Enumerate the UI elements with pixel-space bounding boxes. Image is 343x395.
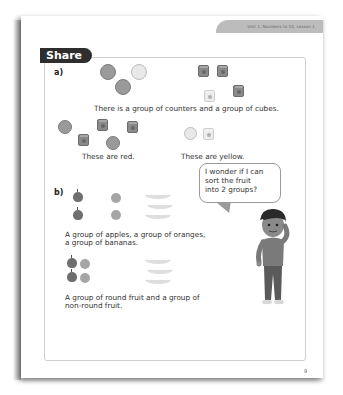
thinking-boy-character-icon: [252, 206, 292, 314]
apple-icon: [67, 272, 77, 282]
red-cube-icon: [233, 85, 244, 97]
part-b-caption2-line2: non-round fruit.: [65, 302, 122, 311]
red-counter-icon: [58, 120, 72, 134]
yellow-counter-icon: [184, 127, 197, 140]
banana-icon: [147, 200, 173, 209]
yellow-caption: These are yellow.: [181, 153, 244, 162]
red-cube-icon: [78, 134, 89, 146]
yellow-cube-icon: [203, 128, 214, 140]
part-a-caption: There is a group of counters and a group…: [94, 105, 279, 114]
banana-icon: [147, 265, 173, 274]
page-number: 9: [304, 368, 307, 374]
part-b-label: b): [54, 188, 63, 197]
orange-icon: [80, 259, 90, 269]
orange-icon: [111, 210, 121, 220]
part-b-caption-line2: a group of bananas.: [65, 239, 138, 248]
red-counter-icon: [100, 64, 116, 80]
yellow-cube-icon: [204, 90, 215, 102]
part-a-label: a): [54, 68, 63, 77]
red-cube-icon: [217, 65, 228, 77]
banana-icon: [145, 275, 171, 284]
red-cube-icon: [127, 121, 138, 133]
orange-icon: [111, 193, 121, 203]
orange-icon: [80, 273, 90, 283]
red-cube-icon: [198, 65, 209, 77]
speech-line-1: I wonder if I can: [205, 167, 275, 176]
apple-icon: [73, 210, 83, 220]
yellow-counter-icon: [131, 64, 147, 80]
banana-icon: [145, 210, 171, 219]
section-title-tab: Share: [40, 48, 92, 63]
book-spine-shadow: [13, 20, 21, 380]
red-counter-icon: [115, 79, 131, 95]
speech-line-3: into 2 groups?: [205, 185, 275, 194]
apple-icon: [73, 192, 83, 202]
red-cube-icon: [97, 119, 108, 131]
banana-icon: [145, 190, 171, 199]
red-caption: These are red.: [82, 153, 135, 162]
section-title: Share: [46, 49, 82, 62]
speech-line-2: sort the fruit: [205, 176, 275, 185]
unit-label: Unit 1: Numbers to 10, Lesson 1: [247, 24, 315, 29]
red-counter-icon: [106, 136, 120, 150]
speech-bubble: I wonder if I can sort the fruit into 2 …: [199, 163, 281, 203]
unit-header-tab: Unit 1: Numbers to 10, Lesson 1: [216, 20, 323, 33]
apple-icon: [67, 258, 77, 268]
banana-icon: [145, 255, 171, 264]
workbook-page: Unit 1: Numbers to 10, Lesson 1 Share a)…: [21, 16, 323, 378]
